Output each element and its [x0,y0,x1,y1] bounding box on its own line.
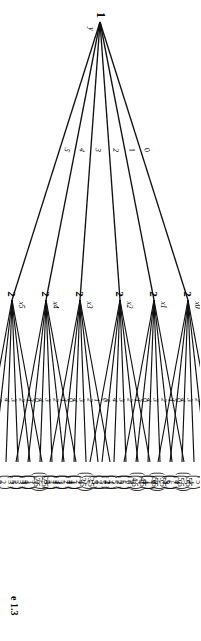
node-name-x4: x4 [51,301,60,308]
root-action-label-2: 2 [112,148,121,153]
payoff-value-p1: 4 [160,480,168,485]
payoff-x5-4: (31) [0,474,2,490]
payoff-value-p1: 4.5 [138,477,146,487]
game-tree-figure: 02x00(56)1(55)2(54)3(53)4(75)5(5.55.5)12… [0,0,200,641]
paren-left: ( [0,475,1,478]
payoff-value-p1: 3 [0,480,2,485]
tree-edge [188,300,200,462]
tree-edge [12,22,100,300]
payoff-value-p1: 5 [194,480,200,485]
node-name-x3: x3 [85,301,94,308]
payoff-value-p1: 4 [64,480,72,485]
payoff-value-p1: 3 [18,480,26,485]
tree-edge [100,22,188,300]
tree-edge [100,22,154,300]
payoff-value-p1: 3 [6,480,14,485]
node-name-x1: x1 [159,301,168,308]
tree-edge [80,22,100,300]
payoff-value-p1: 5.5 [184,477,192,487]
tree-edge [46,22,100,300]
payoff-value-p1: 3 [42,480,50,485]
payoff-value-p1: 3.5 [86,477,94,487]
rotated-page: 02x00(56)1(55)2(54)3(53)4(75)5(5.55.5)12… [0,0,200,641]
tree-edge [100,22,120,300]
payoff-values: 31 [0,479,2,484]
node-player-label-x1: 2 [148,291,160,297]
node-player-label-x5: 2 [6,291,18,297]
payoff-value-p1: 5 [98,480,106,485]
figure-caption: e 1.3 [9,596,20,615]
node-player-label-x3: 2 [74,291,86,297]
tree-edge [0,300,12,462]
node-player-label-x2: 2 [114,291,126,297]
node-player-label-x4: 2 [40,291,52,297]
payoff-value-p1: 3 [30,480,38,485]
payoff-value-p1: 6 [150,480,158,485]
paren-right: ) [0,486,1,489]
payoff-value-p1: 4 [172,480,180,485]
root-player-label: 1 [93,12,108,18]
tree-edge [188,300,200,462]
payoff-value-p1: 4 [52,480,60,485]
figure-canvas: 02x00(56)1(55)2(54)3(53)4(75)5(5.55.5)12… [0,0,200,641]
tree-edge [0,300,12,462]
node-player-label-x0: 2 [182,291,194,297]
node-name-x0: x0 [193,301,201,308]
node-name-x5: x5 [17,301,26,308]
payoff-value-p1: 5 [110,480,118,485]
root-node-name: y [87,27,96,31]
tree-edges [0,0,200,641]
payoff-value-p1: 4 [76,480,84,485]
root-action-label-3: 3 [93,148,102,153]
payoff-value-p1: 3 [126,480,134,485]
node-name-x2: x2 [125,301,134,308]
